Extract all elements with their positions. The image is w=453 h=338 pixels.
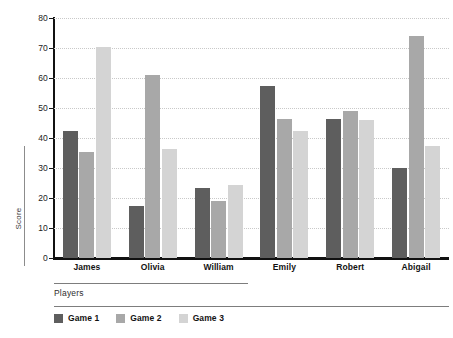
x-axis-tick-label: Emily <box>273 262 296 272</box>
bar <box>409 36 424 258</box>
legend-item[interactable]: Game 3 <box>179 313 224 323</box>
y-axis-tick <box>49 78 54 79</box>
bar <box>162 149 177 259</box>
bar <box>63 131 78 259</box>
bar-group <box>260 18 308 258</box>
x-axis-label-rule <box>54 283 248 284</box>
x-axis-tick-label: Robert <box>336 262 364 272</box>
y-axis-tick-label: 80 <box>26 13 48 23</box>
legend-swatch-icon <box>54 314 63 323</box>
y-axis-tick-label: 0 <box>26 253 48 263</box>
y-axis-tick <box>49 18 54 19</box>
y-axis-label: Score <box>14 191 23 247</box>
bar <box>228 185 243 259</box>
legend-swatch-icon <box>116 314 125 323</box>
bar <box>343 111 358 258</box>
legend-label: Game 3 <box>193 313 224 323</box>
bar <box>195 188 210 259</box>
bar-group <box>195 18 243 258</box>
legend-item[interactable]: Game 2 <box>116 313 161 323</box>
y-axis-tick-label: 40 <box>26 133 48 143</box>
legend: Game 1Game 2Game 3 <box>54 313 234 323</box>
y-axis-tick-label: 30 <box>26 163 48 173</box>
x-axis-tick-label: Olivia <box>141 262 165 272</box>
y-axis-tick <box>49 198 54 199</box>
bar-group <box>129 18 177 258</box>
bar <box>425 146 440 259</box>
x-axis-tick-label: James <box>73 262 100 272</box>
bar-chart: Score 01020304050607080 JamesOliviaWilli… <box>0 0 453 338</box>
y-axis-tick-labels: 01020304050607080 <box>26 0 48 338</box>
bar <box>326 119 341 259</box>
bar <box>96 47 111 259</box>
legend-label: Game 1 <box>68 313 99 323</box>
y-axis-label-group: Score <box>8 196 24 266</box>
legend-swatch-icon <box>179 314 188 323</box>
plot-area <box>54 18 449 258</box>
gridline <box>54 18 449 19</box>
x-axis-tick-label: William <box>203 262 233 272</box>
bar <box>79 152 94 259</box>
y-axis-label-rule <box>24 146 25 266</box>
bar <box>277 119 292 259</box>
legend-item[interactable]: Game 1 <box>54 313 99 323</box>
bar <box>129 206 144 259</box>
gridline <box>54 108 449 109</box>
legend-label: Game 2 <box>130 313 161 323</box>
legend-rule <box>54 306 449 307</box>
y-axis-tick <box>49 48 54 49</box>
bar-group <box>63 18 111 258</box>
bar <box>145 75 160 258</box>
bar <box>211 201 226 258</box>
y-axis-tick <box>49 168 54 169</box>
y-axis-tick <box>49 228 54 229</box>
x-axis-tick-label: Abigail <box>402 262 431 272</box>
y-axis-tick-label: 50 <box>26 103 48 113</box>
bar-group <box>326 18 374 258</box>
x-axis-label: Players <box>54 288 84 298</box>
y-axis-tick <box>49 138 54 139</box>
gridline <box>54 78 449 79</box>
bar-group <box>392 18 440 258</box>
bar <box>260 86 275 259</box>
bar <box>392 168 407 258</box>
y-axis-tick <box>49 108 54 109</box>
x-axis-spine <box>53 257 449 260</box>
y-axis-tick-label: 10 <box>26 223 48 233</box>
gridline <box>54 48 449 49</box>
y-axis-tick <box>49 258 54 259</box>
gridline <box>54 228 449 229</box>
y-axis-tick-label: 60 <box>26 73 48 83</box>
bar <box>293 131 308 259</box>
gridline <box>54 138 449 139</box>
gridline <box>54 168 449 169</box>
gridline <box>54 198 449 199</box>
y-axis-tick-label: 20 <box>26 193 48 203</box>
bar <box>359 120 374 258</box>
y-axis-tick-label: 70 <box>26 43 48 53</box>
